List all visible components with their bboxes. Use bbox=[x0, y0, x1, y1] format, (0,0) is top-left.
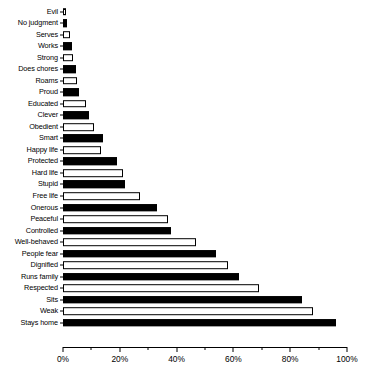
x-axis-minor-tick bbox=[318, 347, 319, 350]
bar bbox=[63, 123, 94, 131]
horizontal-bar-chart: EvilNo judgmentServesWorksStrongDoes cho… bbox=[0, 0, 372, 374]
chart-row: Does chores bbox=[0, 64, 372, 76]
x-axis-tick-label: 0% bbox=[57, 354, 69, 364]
chart-row: People fear bbox=[0, 248, 372, 260]
bar bbox=[63, 77, 77, 85]
bar bbox=[63, 66, 76, 74]
category-label: Roams bbox=[0, 77, 58, 85]
x-axis-line bbox=[63, 347, 347, 348]
x-axis-tick bbox=[176, 347, 177, 352]
chart-row: Sits bbox=[0, 294, 372, 306]
x-axis-tick-labels: 0%20%40%60%80%100% bbox=[0, 354, 372, 368]
bar bbox=[63, 8, 66, 16]
chart-row: Protected bbox=[0, 156, 372, 168]
chart-row: Dignified bbox=[0, 259, 372, 271]
category-label: Controlled bbox=[0, 227, 58, 235]
chart-row: Hard life bbox=[0, 167, 372, 179]
bar bbox=[63, 238, 196, 246]
chart-row: Smart bbox=[0, 133, 372, 145]
x-axis-tick-label: 100% bbox=[336, 354, 357, 364]
chart-row: Well-behaved bbox=[0, 236, 372, 248]
category-label: Well-behaved bbox=[0, 238, 58, 246]
chart-row: Clever bbox=[0, 110, 372, 122]
category-label: Does chores bbox=[0, 65, 58, 73]
chart-row: Onerous bbox=[0, 202, 372, 214]
x-axis-minor-tick bbox=[91, 347, 92, 350]
chart-row: Roams bbox=[0, 75, 372, 87]
bar bbox=[63, 43, 72, 51]
category-label: Onerous bbox=[0, 204, 58, 212]
chart-rows: EvilNo judgmentServesWorksStrongDoes cho… bbox=[0, 6, 372, 328]
bar bbox=[63, 158, 117, 166]
x-axis-tick-label: 20% bbox=[111, 354, 128, 364]
category-label: Hard life bbox=[0, 169, 58, 177]
category-label: Respected bbox=[0, 284, 58, 292]
chart-row: Stupid bbox=[0, 179, 372, 191]
x-axis-minor-tick bbox=[148, 347, 149, 350]
category-label: Weak bbox=[0, 307, 58, 315]
chart-row: No judgment bbox=[0, 18, 372, 30]
bar bbox=[63, 227, 171, 235]
chart-row: Proud bbox=[0, 87, 372, 99]
category-label: Free life bbox=[0, 192, 58, 200]
chart-row: Respected bbox=[0, 282, 372, 294]
category-label: Educated bbox=[0, 100, 58, 108]
bar bbox=[63, 192, 140, 200]
bar bbox=[63, 284, 259, 292]
category-label: Happy life bbox=[0, 146, 58, 154]
chart-row: Free life bbox=[0, 190, 372, 202]
x-axis-tick-label: 80% bbox=[282, 354, 299, 364]
bar bbox=[63, 112, 89, 120]
category-label: Clever bbox=[0, 111, 58, 119]
chart-row: Controlled bbox=[0, 225, 372, 237]
category-label: Stays home bbox=[0, 319, 58, 327]
bar bbox=[63, 215, 168, 223]
bar bbox=[63, 250, 216, 258]
category-label: Peaceful bbox=[0, 215, 58, 223]
chart-row: Works bbox=[0, 41, 372, 53]
bar bbox=[63, 19, 67, 27]
chart-row: Evil bbox=[0, 6, 372, 18]
bar bbox=[63, 146, 101, 154]
x-axis-tick-label: 60% bbox=[225, 354, 242, 364]
chart-row: Obedient bbox=[0, 121, 372, 133]
chart-row: Runs family bbox=[0, 271, 372, 283]
bar bbox=[63, 135, 103, 143]
bar bbox=[63, 307, 313, 315]
chart-row: Happy life bbox=[0, 144, 372, 156]
bar bbox=[63, 31, 70, 39]
category-label: No judgment bbox=[0, 19, 58, 27]
x-axis-minor-tick bbox=[205, 347, 206, 350]
bar bbox=[63, 319, 336, 327]
x-axis-minor-tick bbox=[261, 347, 262, 350]
bar bbox=[63, 261, 228, 269]
category-label: Smart bbox=[0, 134, 58, 142]
category-label: Sits bbox=[0, 296, 58, 304]
bar bbox=[63, 100, 86, 108]
category-label: People fear bbox=[0, 250, 58, 258]
category-label: Strong bbox=[0, 54, 58, 62]
category-label: Protected bbox=[0, 157, 58, 165]
x-axis-tick bbox=[63, 347, 64, 352]
x-axis-tick-label: 40% bbox=[168, 354, 185, 364]
bar bbox=[63, 204, 157, 212]
bar bbox=[63, 181, 125, 189]
chart-row: Strong bbox=[0, 52, 372, 64]
category-label: Proud bbox=[0, 88, 58, 96]
category-label: Runs family bbox=[0, 273, 58, 281]
bar bbox=[63, 89, 79, 97]
category-label: Obedient bbox=[0, 123, 58, 131]
bar bbox=[63, 169, 123, 177]
bar bbox=[63, 54, 73, 62]
chart-row: Weak bbox=[0, 305, 372, 317]
chart-row: Educated bbox=[0, 98, 372, 110]
category-label: Stupid bbox=[0, 180, 58, 188]
category-label: Evil bbox=[0, 8, 58, 16]
chart-row: Stays home bbox=[0, 317, 372, 329]
bar bbox=[63, 296, 302, 304]
category-label: Serves bbox=[0, 31, 58, 39]
category-label: Works bbox=[0, 42, 58, 50]
x-axis-tick bbox=[119, 347, 120, 352]
x-axis-tick bbox=[233, 347, 234, 352]
category-label: Dignified bbox=[0, 261, 58, 269]
